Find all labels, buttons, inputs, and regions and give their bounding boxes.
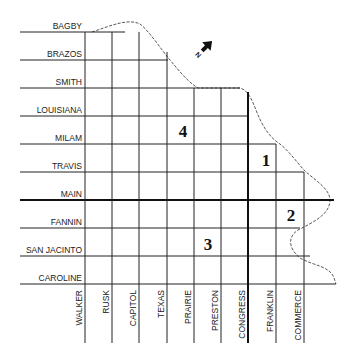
street-label: CAPITOL [128,290,138,326]
district-boundary [92,22,336,284]
street-label: RUSK [101,290,111,314]
north-label: N [194,50,203,59]
zone-labels: 1234 [179,122,296,254]
street-label: CAROLINE [39,273,83,283]
zone-number: 4 [179,122,188,141]
downtown-street-map: BAGBYBRAZOSSMITHLOUISIANAMILAMTRAVISMAIN… [0,0,360,364]
zone-number: 2 [287,206,296,225]
street-label: TRAVIS [52,161,82,171]
street-label: SAN JACINTO [26,245,82,255]
zone-number: 1 [262,151,271,170]
street-label: COMMERCE [293,290,303,341]
vertical-streets: WALKERRUSKCAPITOLTEXASPRAIRIEPRESTONCONG… [74,32,304,343]
street-label: BAGBY [53,21,83,31]
street-label: PRAIRIE [183,290,193,324]
north-arrow-icon: N [192,37,217,62]
street-label: WALKER [74,290,84,326]
street-label: LOUISIANA [37,105,83,115]
street-label: BRAZOS [47,49,82,59]
street-label: PRESTON [210,290,220,331]
street-label: TEXAS [156,290,166,318]
zone-number: 3 [204,235,213,254]
street-label: FANNIN [51,217,82,227]
street-label: SMITH [56,77,82,87]
street-label: FRANKLIN [265,290,275,332]
street-label: CONGRESS [237,290,247,339]
street-label: MAIN [61,189,82,199]
street-label: MILAM [55,133,82,143]
